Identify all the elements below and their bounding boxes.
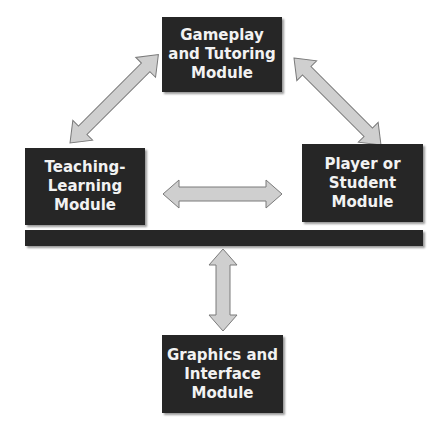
arrow-gameplay-teaching — [60, 45, 168, 153]
arrow-gameplay-player — [284, 48, 391, 155]
arrow-teaching-player — [163, 180, 282, 208]
graphics-interface-module: Graphics and Interface Module — [162, 335, 283, 413]
graphics-module-label: Graphics and Interface Module — [167, 346, 278, 403]
teaching-module-label: Teaching- Learning Module — [45, 158, 126, 215]
teaching-learning-module: Teaching- Learning Module — [25, 148, 145, 225]
integration-bar — [25, 230, 423, 246]
player-student-module: Player or Student Module — [302, 144, 423, 222]
gameplay-module-label: Gameplay and Tutoring Module — [168, 26, 275, 83]
gameplay-tutoring-module: Gameplay and Tutoring Module — [162, 17, 282, 92]
arrow-bar-graphics — [209, 249, 237, 331]
player-module-label: Player or Student Module — [324, 155, 400, 212]
